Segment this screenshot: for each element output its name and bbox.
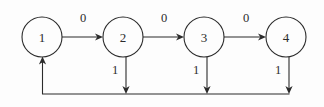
node-4-label: 4	[283, 30, 290, 45]
node-1-label: 1	[39, 30, 46, 45]
edge-label-3-to-4: 0	[243, 11, 249, 25]
return-edge-group	[39, 57, 290, 95]
edge-3-down-group: 1	[193, 57, 211, 94]
node-4[interactable]: 4	[266, 17, 306, 57]
node-1[interactable]: 1	[22, 17, 62, 57]
return-edge-path	[43, 60, 290, 94]
edge-4-down-group: 1	[275, 57, 293, 94]
edge-label-3-down: 1	[193, 63, 199, 77]
edge-3-to-4-group: 0	[224, 11, 266, 41]
edge-2-to-3-group: 0	[143, 11, 184, 41]
node-2[interactable]: 2	[103, 17, 143, 57]
edge-2-down-group: 1	[112, 57, 130, 94]
edge-label-2-down: 1	[112, 63, 118, 77]
node-3-label: 3	[201, 30, 208, 45]
edge-label-1-to-2: 0	[80, 11, 86, 25]
node-2-label: 2	[120, 30, 127, 45]
edge-label-4-down: 1	[275, 63, 281, 77]
edge-1-to-2-group: 0	[62, 11, 103, 41]
edge-label-2-to-3: 0	[161, 11, 167, 25]
state-diagram-container: 0 0 0 1 1 1	[0, 0, 324, 107]
node-3[interactable]: 3	[184, 17, 224, 57]
state-diagram-canvas: 0 0 0 1 1 1	[0, 0, 324, 107]
